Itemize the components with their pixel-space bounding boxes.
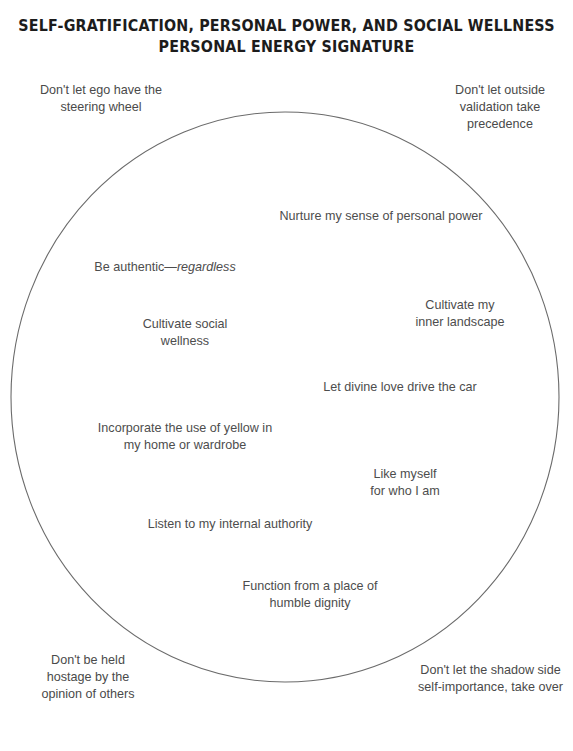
- affirmation-like-myself: Like myself for who I am: [340, 466, 470, 500]
- affirmation-cultivate-social-wellness: Cultivate social wellness: [110, 316, 260, 350]
- caution-held-hostage-opinions: Don't be held hostage by the opinion of …: [8, 652, 168, 703]
- caution-ego-steering-wheel: Don't let ego have the steering wheel: [6, 82, 196, 116]
- affirmation-nurture-personal-power: Nurture my sense of personal power: [246, 208, 516, 225]
- page-title: SELF-GRATIFICATION, PERSONAL POWER, AND …: [0, 16, 573, 58]
- caution-outside-validation: Don't let outside validation take preced…: [430, 82, 570, 133]
- affirmation-be-authentic-text: Be authentic—: [94, 260, 177, 274]
- affirmation-listen-internal-authority: Listen to my internal authority: [125, 516, 335, 533]
- page-canvas: SELF-GRATIFICATION, PERSONAL POWER, AND …: [0, 0, 573, 751]
- affirmation-humble-dignity: Function from a place of humble dignity: [205, 578, 415, 612]
- title-line-2: PERSONAL ENERGY SIGNATURE: [17, 37, 556, 58]
- affirmation-be-authentic: Be authentic—regardless: [55, 259, 275, 276]
- affirmation-cultivate-inner-landscape: Cultivate my inner landscape: [390, 297, 530, 331]
- affirmation-incorporate-yellow: Incorporate the use of yellow in my home…: [75, 420, 295, 454]
- affirmation-divine-love-drive: Let divine love drive the car: [300, 379, 500, 396]
- title-line-1: SELF-GRATIFICATION, PERSONAL POWER, AND …: [17, 16, 556, 37]
- caution-shadow-side-self-importance: Don't let the shadow side self-importanc…: [408, 662, 573, 696]
- affirmation-be-authentic-emphasis: regardless: [177, 260, 236, 274]
